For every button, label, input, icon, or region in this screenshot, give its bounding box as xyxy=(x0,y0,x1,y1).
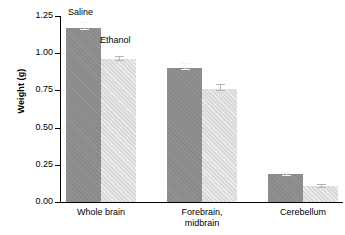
bar-saline-2 xyxy=(268,174,303,202)
error-bar-cap-bottom xyxy=(216,90,225,91)
x-axis-category-label: Forebrain, midbrain xyxy=(152,207,252,229)
error-bar-cap-bottom xyxy=(115,60,124,61)
error-bar-cap-top xyxy=(181,63,190,64)
y-axis-tick-label: 0.00 xyxy=(13,197,53,206)
error-bar-cap-top xyxy=(317,184,326,185)
x-axis-category-label: Cerebellum xyxy=(253,207,345,218)
bar-saline-1 xyxy=(167,68,202,202)
bar-ethanol-2 xyxy=(303,186,338,202)
bar-ethanol-0 xyxy=(101,59,136,202)
y-axis-tick-label: 0.75 xyxy=(13,85,53,94)
error-bar-cap-top xyxy=(282,172,291,173)
bar-chart: Weight (g) 0.000.250.500.751.001.25 Whol… xyxy=(0,0,345,235)
y-axis-tick-label: 1.25 xyxy=(13,11,53,20)
error-bar-cap-bottom xyxy=(80,29,89,30)
error-bar-cap-top xyxy=(80,22,89,23)
error-bar-cap-bottom xyxy=(282,175,291,176)
error-bar-cap-top xyxy=(216,84,225,85)
x-axis-line xyxy=(60,202,343,203)
series-label-saline: Saline xyxy=(68,8,93,17)
y-axis-tick-label: 0.25 xyxy=(13,160,53,169)
bar-ethanol-1 xyxy=(202,89,237,202)
error-bar-cap-top xyxy=(115,56,124,57)
x-axis-category-label: Whole brain xyxy=(51,207,151,218)
series-label-ethanol: Ethanol xyxy=(100,36,131,45)
bar-saline-0 xyxy=(66,28,101,202)
y-axis-tick-label: 0.50 xyxy=(13,123,53,132)
error-bar-cap-bottom xyxy=(181,69,190,70)
error-bar-cap-bottom xyxy=(317,187,326,188)
y-axis-tick-label: 1.00 xyxy=(13,48,53,57)
